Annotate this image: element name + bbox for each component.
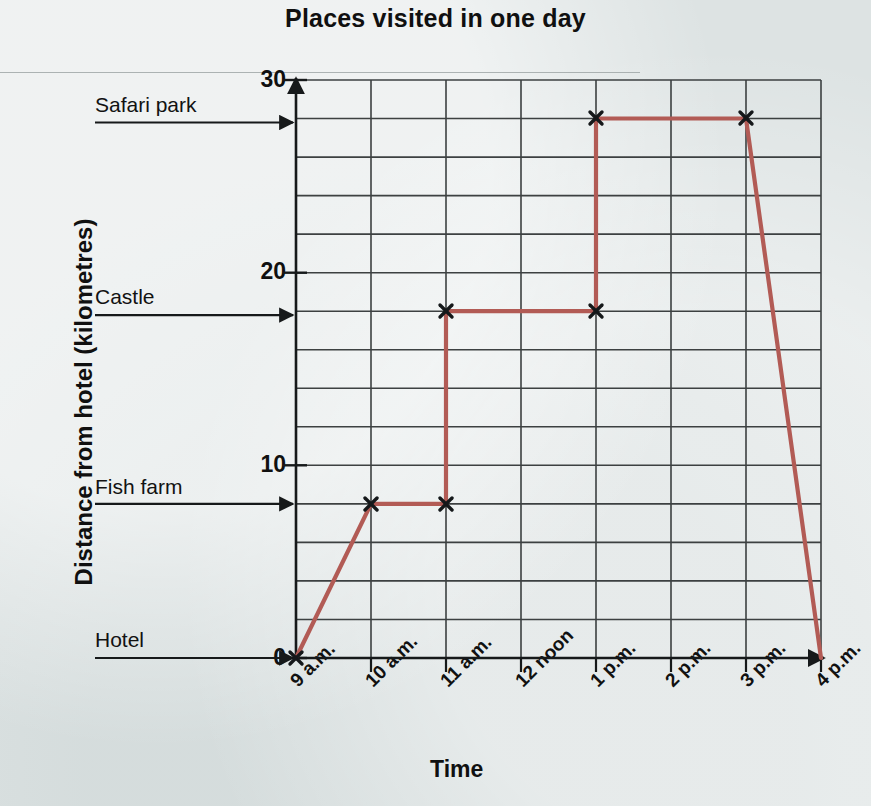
grid-lines <box>296 80 821 658</box>
axis-lines <box>296 78 824 658</box>
x-axis-ticks <box>371 658 821 672</box>
chart-plot-area <box>0 0 871 806</box>
annotation-arrows <box>95 123 293 659</box>
